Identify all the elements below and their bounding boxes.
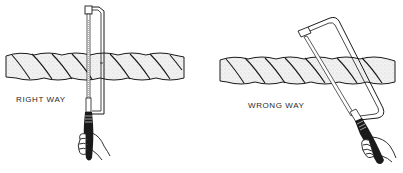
hand-left xyxy=(78,133,110,160)
right-way-label: RIGHT WAY xyxy=(16,95,66,104)
hacksaw-vertical xyxy=(84,6,104,161)
rope-left xyxy=(6,53,184,80)
hacksaw-rope-diagram: RIGHT WAY WRONG WAY xyxy=(0,0,403,173)
hacksaw-angled xyxy=(298,17,384,164)
illustration xyxy=(0,0,403,173)
wrong-way-label: WRONG WAY xyxy=(248,101,305,110)
